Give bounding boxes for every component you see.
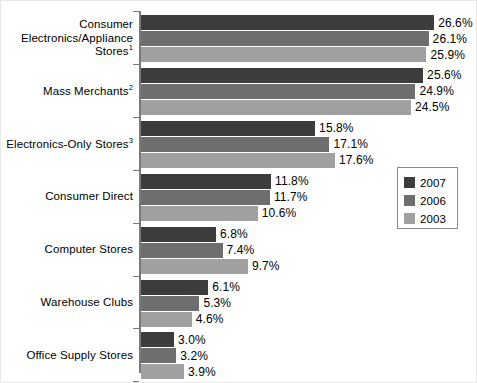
bar-2006 — [141, 31, 429, 46]
bar-row: 24.9% — [141, 84, 415, 99]
bar-group: Mass Merchants225.6%24.9%24.5% — [1, 68, 477, 115]
legend-label: 2003 — [420, 213, 446, 225]
bar-value-label: 15.8% — [315, 121, 354, 135]
legend-item[interactable]: 2007 — [404, 174, 457, 191]
category-label-line: Consumer — [3, 18, 133, 32]
bar-row: 24.5% — [141, 100, 411, 115]
bar-group: Computer Stores6.8%7.4%9.7% — [1, 227, 477, 274]
bar-row: 6.1% — [141, 280, 208, 295]
category-label: Electronics-Only Stores3 — [3, 138, 133, 152]
bar-row: 25.9% — [141, 47, 426, 62]
bar-2007 — [141, 68, 423, 83]
category-label: Computer Stores — [3, 243, 133, 257]
bar-row: 3.2% — [141, 348, 176, 363]
bar-2007 — [141, 174, 271, 189]
bar-value-label: 7.4% — [223, 243, 255, 257]
bar-2006 — [141, 190, 270, 205]
legend-item-container: 200720062003 — [404, 174, 457, 227]
bar-chart: ConsumerElectronics/ApplianceStores126.6… — [0, 0, 477, 383]
legend-item[interactable]: 2003 — [404, 210, 457, 227]
bar-value-label: 3.2% — [176, 349, 208, 363]
bar-value-label: 3.0% — [174, 333, 206, 347]
legend-swatch-icon — [404, 177, 415, 188]
bar-row: 25.6% — [141, 68, 423, 83]
footnote-marker: 1 — [129, 43, 133, 52]
bar-value-label: 10.6% — [258, 206, 297, 220]
bar-2003 — [141, 312, 192, 327]
bar-group: Electronics-Only Stores315.8%17.1%17.6% — [1, 121, 477, 168]
bar-2003 — [141, 364, 184, 379]
legend-label: 2006 — [420, 195, 446, 207]
bar-group: Office Supply Stores3.0%3.2%3.9% — [1, 332, 477, 379]
bar-row: 11.8% — [141, 174, 271, 189]
bar-row: 5.3% — [141, 296, 199, 311]
legend-label: 2007 — [420, 177, 446, 189]
bar-row: 10.6% — [141, 206, 258, 221]
axis-tick — [133, 64, 139, 65]
bar-value-label: 11.8% — [271, 174, 309, 188]
bar-value-label: 6.1% — [208, 280, 240, 294]
bar-value-label: 24.5% — [411, 100, 450, 114]
category-label-line: Warehouse Clubs — [3, 296, 133, 310]
axis-tick — [133, 223, 139, 224]
bar-row: 9.7% — [141, 259, 248, 274]
category-label: Consumer Direct — [3, 190, 133, 204]
bar-2007 — [141, 227, 216, 242]
category-label: Warehouse Clubs — [3, 296, 133, 310]
bar-value-label: 3.9% — [184, 365, 216, 379]
bar-row: 17.1% — [141, 137, 329, 152]
category-label-line: Computer Stores — [3, 243, 133, 257]
bar-row: 15.8% — [141, 121, 315, 136]
bar-value-label: 26.6% — [434, 16, 473, 30]
category-label: Mass Merchants2 — [3, 85, 133, 99]
bar-row: 11.7% — [141, 190, 270, 205]
bar-row: 6.8% — [141, 227, 216, 242]
axis-tick — [133, 328, 139, 329]
axis-tick — [133, 276, 139, 277]
bar-value-label: 25.9% — [426, 48, 465, 62]
bar-2006 — [141, 348, 176, 363]
bar-value-label: 17.1% — [329, 137, 368, 151]
category-label: ConsumerElectronics/ApplianceStores1 — [3, 18, 133, 59]
axis-tick — [133, 381, 139, 382]
bar-row: 7.4% — [141, 243, 223, 258]
bar-2006 — [141, 296, 199, 311]
bar-value-label: 11.7% — [270, 190, 308, 204]
category-label-line: Electronics/Appliance — [3, 32, 133, 46]
bar-row: 4.6% — [141, 312, 192, 327]
category-label: Office Supply Stores — [3, 349, 133, 363]
bar-row: 3.9% — [141, 364, 184, 379]
bar-value-label: 17.6% — [335, 153, 374, 167]
bar-value-label: 6.8% — [216, 227, 248, 241]
bar-value-label: 4.6% — [192, 312, 224, 326]
legend-item[interactable]: 2006 — [404, 192, 457, 209]
bar-2006 — [141, 137, 329, 152]
category-label-line: Electronics-Only Stores3 — [3, 138, 133, 152]
axis-tick — [133, 170, 139, 171]
legend: 200720062003 — [397, 167, 458, 229]
bar-2003 — [141, 153, 335, 168]
category-label-line: Consumer Direct — [3, 190, 133, 204]
category-label-line: Mass Merchants2 — [3, 85, 133, 99]
bar-2007 — [141, 332, 174, 347]
bar-value-label: 25.6% — [423, 68, 462, 82]
bar-group: ConsumerElectronics/ApplianceStores126.6… — [1, 15, 477, 62]
axis-tick — [133, 117, 139, 118]
footnote-marker: 3 — [129, 136, 133, 145]
bar-2003 — [141, 100, 411, 115]
bar-group: Warehouse Clubs6.1%5.3%4.6% — [1, 280, 477, 327]
bar-row: 17.6% — [141, 153, 335, 168]
bar-value-label: 26.1% — [429, 32, 468, 46]
bar-2006 — [141, 243, 223, 258]
bar-row: 26.1% — [141, 31, 429, 46]
bar-2007 — [141, 280, 208, 295]
bar-2006 — [141, 84, 415, 99]
bar-row: 26.6% — [141, 15, 434, 30]
bar-row: 3.0% — [141, 332, 174, 347]
bar-2003 — [141, 259, 248, 274]
bar-value-label: 5.3% — [199, 296, 231, 310]
bar-2007 — [141, 15, 434, 30]
legend-swatch-icon — [404, 195, 415, 206]
category-label-line: Office Supply Stores — [3, 349, 133, 363]
legend-swatch-icon — [404, 213, 415, 224]
